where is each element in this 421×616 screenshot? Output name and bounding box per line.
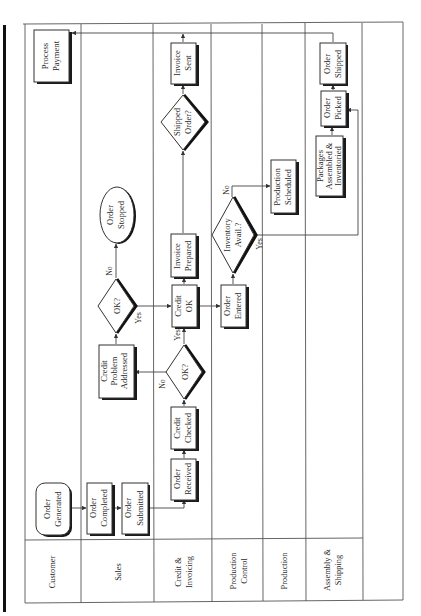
svg-text:Order?: Order?: [183, 110, 193, 134]
svg-text:Credit: Credit: [99, 360, 109, 382]
svg-text:Order: Order: [105, 205, 115, 225]
svg-text:OK: OK: [184, 299, 194, 312]
svg-text:Shipped: Shipped: [172, 107, 182, 136]
svg-text:Order: Order: [322, 54, 332, 74]
node-production-scheduled: Production Scheduled: [271, 160, 299, 215]
svg-text:Invoice: Invoice: [172, 243, 182, 269]
node-order-generated: Order Generated: [36, 483, 72, 537]
svg-text:Stopped: Stopped: [116, 200, 126, 229]
node-order-received: Order Received: [171, 459, 199, 502]
svg-text:Shipped: Shipped: [333, 49, 343, 78]
node-order-picked: Order Picked: [321, 91, 349, 128]
svg-text:Prepared: Prepared: [183, 240, 193, 271]
svg-text:Submitted: Submitted: [135, 490, 145, 526]
svg-text:Customer: Customer: [48, 556, 57, 589]
svg-text:Inventory: Inventory: [222, 218, 232, 252]
lane-label-assembly-shipping: Assembly & Shipping: [323, 548, 343, 591]
svg-text:Picked: Picked: [333, 96, 343, 120]
svg-text:Problem: Problem: [109, 356, 119, 385]
svg-text:Control: Control: [240, 558, 249, 584]
node-process-payment: Process Payment: [34, 30, 72, 84]
svg-text:Inventoried: Inventoried: [333, 145, 343, 185]
node-order-completed: Order Completed: [87, 483, 115, 536]
svg-text:Invoicing: Invoicing: [185, 555, 194, 588]
lane-label-sales: Sales: [114, 563, 123, 581]
svg-text:Credit: Credit: [172, 417, 182, 439]
node-ok-sales-decision: OK?: [98, 279, 136, 333]
flow-lines: [71, 33, 358, 508]
svg-text:Scheduled: Scheduled: [283, 168, 293, 205]
edge-label-ok-credit-yes: Yes: [173, 329, 182, 340]
node-order-entered: Order Entered: [221, 285, 249, 329]
svg-text:Assembly &: Assembly &: [323, 548, 332, 591]
edge-label-ok-credit-no: No: [158, 379, 167, 389]
node-invoice-sent: Invoice Sent: [171, 43, 199, 86]
edge-label-ok-sales-yes: Yes: [134, 312, 143, 323]
node-credit-checked: Credit Checked: [171, 407, 199, 451]
svg-text:Production: Production: [272, 167, 282, 205]
lane-label-credit-invoicing: Credit & Invoicing: [174, 555, 194, 588]
svg-text:Avail.?: Avail.?: [233, 223, 243, 248]
svg-text:OK?: OK?: [180, 364, 190, 380]
svg-text:Entered: Entered: [233, 292, 243, 319]
left-rule-lower: [3, 205, 6, 612]
node-ok-credit-decision: OK?: [166, 345, 204, 399]
svg-text:OK?: OK?: [112, 298, 122, 314]
svg-text:Completed: Completed: [99, 488, 109, 526]
svg-text:Sent: Sent: [183, 55, 193, 71]
node-order-shipped: Order Shipped: [320, 43, 348, 86]
svg-text:Shipping: Shipping: [334, 554, 343, 585]
svg-text:Order: Order: [123, 498, 133, 518]
svg-text:Generated: Generated: [53, 491, 63, 527]
svg-text:Order: Order: [88, 498, 98, 518]
swimlane-flowchart: Customer Sales Credit & Invoicing Produc…: [0, 0, 421, 616]
edge-label-inventory-yes: Yes: [255, 238, 264, 249]
node-order-stopped: Order Stopped: [100, 187, 136, 244]
svg-text:Order: Order: [322, 98, 332, 118]
svg-text:Received: Received: [183, 462, 193, 495]
edge-label-ok-sales-no: No: [105, 266, 114, 276]
svg-text:Production: Production: [229, 552, 238, 590]
node-credit-ok: Credit OK: [172, 285, 200, 329]
svg-text:Credit: Credit: [173, 295, 183, 317]
node-inventory-avail-decision: Inventory Avail.?: [212, 197, 256, 273]
svg-text:Credit &: Credit &: [174, 557, 183, 587]
lane-label-customer: Customer: [48, 556, 57, 589]
svg-text:Addressed: Addressed: [119, 352, 129, 389]
svg-text:Sales: Sales: [114, 563, 123, 581]
node-packages-assembled-inventoried: Packages Assembled & Inventoried: [315, 136, 346, 198]
svg-text:Process: Process: [40, 42, 50, 69]
svg-text:Order: Order: [172, 469, 182, 489]
svg-text:Payment: Payment: [51, 40, 61, 71]
svg-text:Checked: Checked: [183, 412, 193, 443]
svg-text:Invoice: Invoice: [172, 50, 182, 76]
edge-label-inventory-no: No: [222, 185, 231, 195]
node-order-submitted: Order Submitted: [122, 483, 150, 536]
svg-text:Order: Order: [42, 499, 52, 519]
lane-label-production-control: Production Control: [229, 552, 249, 590]
node-invoice-prepared: Invoice Prepared: [171, 234, 199, 279]
left-rule: [3, 25, 6, 205]
node-shipped-order-decision: Shipped Order?: [161, 95, 207, 150]
lane-label-production: Production: [280, 552, 289, 590]
svg-text:Production: Production: [280, 552, 289, 590]
svg-text:Order: Order: [222, 296, 232, 316]
node-credit-problem-addressed: Credit Problem Addressed: [99, 345, 137, 400]
